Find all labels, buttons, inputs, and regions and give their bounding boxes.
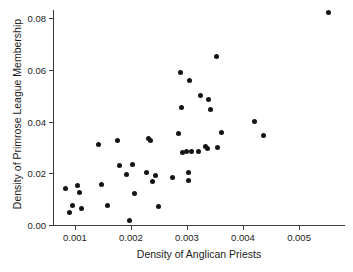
x-tick-mark bbox=[187, 226, 188, 230]
scatter-point bbox=[70, 203, 75, 208]
scatter-point bbox=[75, 183, 80, 188]
x-tick-label: 0.004 bbox=[231, 232, 255, 243]
y-tick-label: 0.04 bbox=[28, 116, 47, 127]
x-axis-line bbox=[53, 225, 345, 226]
scatter-point bbox=[127, 218, 132, 223]
scatter-point bbox=[252, 119, 257, 124]
x-tick-label: 0.001 bbox=[63, 232, 87, 243]
x-tick-label: 0.005 bbox=[287, 232, 311, 243]
scatter-point bbox=[115, 138, 120, 143]
scatter-point bbox=[79, 206, 84, 211]
scatter-point bbox=[219, 130, 224, 135]
scatter-point bbox=[186, 178, 191, 183]
scatter-point bbox=[214, 54, 219, 59]
plot-data-area bbox=[53, 10, 345, 225]
x-tick-mark bbox=[75, 226, 76, 230]
scatter-point bbox=[261, 133, 266, 138]
y-axis-ticklabels: 0.000.020.040.060.08 bbox=[0, 0, 46, 272]
scatter-point bbox=[196, 149, 201, 154]
y-tick-label: 0.02 bbox=[28, 168, 47, 179]
scatter-point bbox=[178, 70, 183, 75]
scatter-point bbox=[186, 170, 191, 175]
x-tick-label: 0.003 bbox=[175, 232, 199, 243]
scatter-point bbox=[153, 173, 158, 178]
scatter-point bbox=[198, 93, 203, 98]
scatter-point bbox=[208, 107, 213, 112]
scatter-point bbox=[189, 149, 194, 154]
scatter-point bbox=[144, 170, 149, 175]
scatter-point bbox=[205, 146, 210, 151]
scatter-point bbox=[150, 179, 155, 184]
x-axis-title: Density of Anglican Priests bbox=[53, 248, 345, 260]
scatter-point bbox=[124, 172, 129, 177]
x-tick-label: 0.002 bbox=[119, 232, 143, 243]
scatter-point bbox=[67, 210, 72, 215]
scatter-point bbox=[215, 145, 220, 150]
x-tick-mark bbox=[299, 226, 300, 230]
scatter-point bbox=[63, 186, 68, 191]
scatter-point bbox=[187, 78, 192, 83]
scatter-point bbox=[117, 163, 122, 168]
scatter-plot-figure: 0.000.020.040.060.08 Density of Anglican… bbox=[0, 0, 353, 272]
y-tick-mark bbox=[49, 225, 53, 226]
y-tick-label: 0.00 bbox=[28, 220, 47, 231]
scatter-point bbox=[99, 182, 104, 187]
scatter-point bbox=[148, 138, 153, 143]
scatter-point bbox=[96, 142, 101, 147]
scatter-point bbox=[156, 204, 161, 209]
y-tick-label: 0.06 bbox=[28, 64, 47, 75]
scatter-point bbox=[326, 10, 331, 15]
x-tick-mark bbox=[243, 226, 244, 230]
scatter-point bbox=[176, 131, 181, 136]
scatter-point bbox=[179, 105, 184, 110]
y-tick-label: 0.08 bbox=[28, 13, 47, 24]
scatter-point bbox=[130, 162, 135, 167]
y-axis-title: Density of Primrose League Membership bbox=[11, 0, 23, 229]
scatter-point bbox=[170, 175, 175, 180]
scatter-point bbox=[206, 97, 211, 102]
scatter-point bbox=[132, 191, 137, 196]
scatter-point bbox=[77, 190, 82, 195]
x-tick-mark bbox=[131, 226, 132, 230]
scatter-point bbox=[105, 203, 110, 208]
